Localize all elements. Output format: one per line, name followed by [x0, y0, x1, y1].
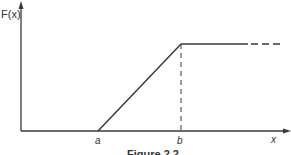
tick-label-b: b [177, 135, 183, 146]
tick-label-a: a [95, 135, 101, 146]
figure-caption: Figure 2.2 [127, 148, 179, 155]
cdf-rising-segment [98, 44, 181, 131]
chart-canvas: F(x) a b x Figure 2.2 [0, 0, 291, 155]
y-axis-label: F(x) [1, 8, 21, 20]
x-axis-arrow-icon [283, 129, 291, 134]
x-axis-label: x [270, 134, 277, 145]
